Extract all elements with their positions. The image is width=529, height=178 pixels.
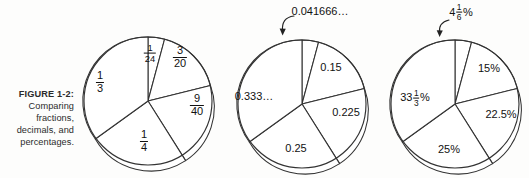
callout-4-1-6-percent-sign: % bbox=[463, 6, 473, 18]
figure-caption-line-1: Comparing bbox=[0, 100, 74, 112]
figure-caption-line-2: fractions, bbox=[0, 112, 74, 124]
figure-caption-line-3: decimals, and bbox=[0, 124, 74, 136]
figure-container: FIGURE 1-2: Comparing fractions, decimal… bbox=[0, 0, 529, 178]
pie-label-0-15: 0.15 bbox=[320, 62, 341, 74]
pie-chart-decimals: 0.333… 0.15 0.225 0.25 bbox=[238, 40, 366, 168]
pie-label-1-3: 1 3 bbox=[96, 70, 104, 94]
pie-label-1-3-numerator: 1 bbox=[96, 70, 104, 83]
callout-4-1-6-denominator: 6 bbox=[456, 13, 463, 22]
pie-label-1-3-denominator: 3 bbox=[96, 83, 104, 95]
figure-caption: FIGURE 1-2: Comparing fractions, decimal… bbox=[0, 88, 74, 148]
pie-chart-fractions: 1 3 1 24 3 20 9 40 1 4 bbox=[84, 37, 212, 165]
pie-label-1-4-numerator: 1 bbox=[140, 129, 148, 142]
pie-label-1-4: 1 4 bbox=[140, 129, 148, 153]
pie-label-9-40: 9 40 bbox=[190, 93, 204, 117]
pie-label-3-20: 3 20 bbox=[173, 45, 187, 69]
pie-label-0-25: 0.25 bbox=[285, 143, 306, 155]
callout-4-1-6-whole: 4 bbox=[449, 6, 455, 18]
figure-caption-line-4: percentages. bbox=[0, 136, 74, 148]
pie-label-1-24: 1 24 bbox=[144, 43, 156, 64]
pie-label-9-40-numerator: 9 bbox=[190, 93, 204, 106]
figure-caption-label: FIGURE 1-2: bbox=[0, 88, 74, 100]
pie-label-33-1-3-whole: 33 bbox=[400, 91, 412, 103]
pie-chart-percentages: 33 1 3 % 15% 22.5% 25% bbox=[391, 40, 519, 168]
pie-label-0-225: 0.225 bbox=[332, 107, 360, 119]
pie-label-33-1-3-percent-sign: % bbox=[420, 91, 430, 103]
pie-label-22-5-percent: 22.5% bbox=[485, 109, 516, 121]
callout-4-1-6-numerator: 1 bbox=[456, 3, 463, 13]
pie-label-33-1-3-denominator: 3 bbox=[413, 99, 420, 108]
pie-label-1-4-denominator: 4 bbox=[140, 142, 148, 154]
pie-label-33-1-3-numerator: 1 bbox=[413, 89, 420, 99]
pie-label-25-percent: 25% bbox=[438, 144, 460, 156]
pie-label-15-percent: 15% bbox=[478, 63, 500, 75]
callout-arrow-decimals bbox=[272, 14, 302, 44]
callout-arrow-percentages bbox=[430, 18, 456, 44]
pie-label-3-20-denominator: 20 bbox=[173, 58, 187, 70]
pie-label-1-24-denominator: 24 bbox=[144, 54, 156, 64]
pie-label-3-20-numerator: 3 bbox=[173, 45, 187, 58]
pie-label-9-40-denominator: 40 bbox=[190, 106, 204, 118]
pie-label-1-24-numerator: 1 bbox=[144, 43, 156, 54]
pie-label-0-333: 0.333… bbox=[235, 91, 274, 103]
pie-label-33-1-3-percent: 33 1 3 % bbox=[400, 89, 430, 108]
